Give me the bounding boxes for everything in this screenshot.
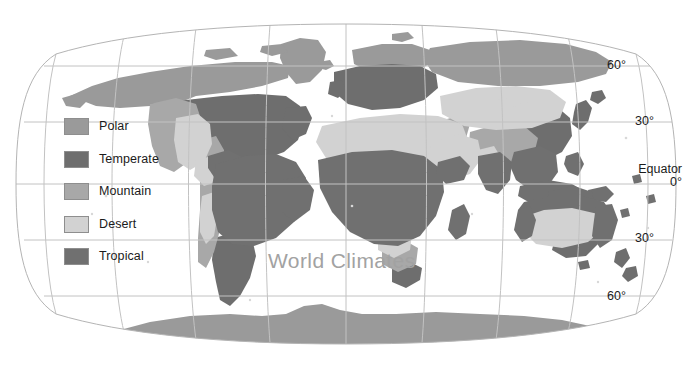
legend-label-tropical: Tropical [99, 250, 144, 263]
legend-item-desert[interactable]: Desert [64, 214, 184, 235]
latitude-label-30n: 30° [635, 115, 654, 128]
latitude-label-60n: 60° [607, 59, 626, 72]
map-legend: Polar Temperate Mountain Desert Tropical [64, 116, 184, 279]
map-title: World Climates [268, 249, 416, 273]
legend-swatch-polar [64, 118, 89, 135]
legend-swatch-desert [64, 216, 89, 233]
legend-label-desert: Desert [99, 218, 136, 231]
legend-item-temperate[interactable]: Temperate [64, 149, 184, 170]
world-climates-map: Polar Temperate Mountain Desert Tropical… [0, 0, 692, 368]
latitude-label-equator: Equator 0° [638, 163, 682, 189]
latitude-label-60s: 60° [607, 290, 626, 303]
legend-swatch-tropical [64, 248, 89, 265]
legend-swatch-mountain [64, 183, 89, 200]
legend-item-polar[interactable]: Polar [64, 116, 184, 137]
legend-label-temperate: Temperate [99, 153, 159, 166]
equator-value: 0° [638, 176, 682, 189]
legend-label-polar: Polar [99, 120, 129, 133]
legend-item-mountain[interactable]: Mountain [64, 181, 184, 202]
legend-label-mountain: Mountain [99, 185, 151, 198]
legend-item-tropical[interactable]: Tropical [64, 246, 184, 267]
latitude-label-30s: 30° [635, 232, 654, 245]
legend-swatch-temperate [64, 151, 89, 168]
